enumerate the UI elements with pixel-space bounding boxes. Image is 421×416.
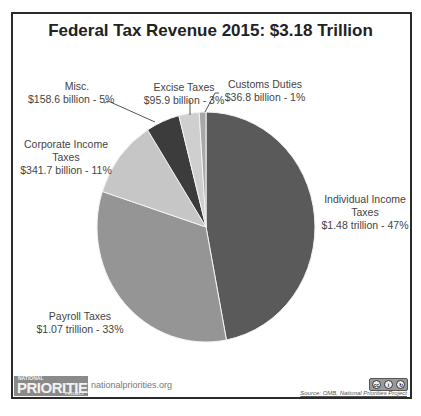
label-corporate-income: Corporate Income Taxes $341.7 billion - … [16, 138, 116, 177]
label-value: $341.7 billion - 11% [16, 164, 116, 177]
label-payroll: Payroll Taxes $1.07 trillion - 33% [30, 310, 130, 336]
label-individual-income: Individual Income Taxes $1.48 trillion -… [316, 193, 414, 232]
label-value: $158.6 billion - 5% [28, 93, 112, 106]
label-misc: Misc. $158.6 billion - 5% [28, 80, 112, 106]
label-value: $1.07 trillion - 33% [30, 323, 130, 336]
npp-logo[interactable]: NATIONAL PRIORITIES PROJECT [14, 376, 88, 396]
label-excise: Excise Taxes $95.9 billion - 3% [134, 81, 234, 107]
label-value: $95.9 billion - 3% [134, 94, 234, 107]
label-customs: Customs Duties $36.8 billion - 1% [220, 78, 310, 104]
label-name-cont: Taxes [316, 206, 414, 219]
attribution-icon: i [384, 380, 393, 389]
label-value: $1.48 trillion - 47% [316, 219, 414, 232]
label-name: Misc. [28, 80, 112, 93]
label-value: $36.8 billion - 1% [220, 91, 310, 104]
source-note: Source: OMB, National Priorities Project [300, 390, 407, 396]
pie-slices [97, 112, 315, 342]
label-name: Excise Taxes [134, 81, 234, 94]
share-alike-icon: ↻ [396, 380, 405, 389]
label-name: Individual Income [316, 193, 414, 206]
label-name-cont: Taxes [16, 151, 116, 164]
logo-bottom-text: PROJECT [65, 391, 84, 396]
site-link[interactable]: nationalpriorities.org [91, 380, 172, 390]
pie-slice-individual-income-taxes [206, 112, 315, 340]
label-name: Corporate Income [16, 138, 116, 151]
label-name: Payroll Taxes [30, 310, 130, 323]
cc-icon: cc [372, 380, 381, 389]
label-name: Customs Duties [220, 78, 310, 91]
